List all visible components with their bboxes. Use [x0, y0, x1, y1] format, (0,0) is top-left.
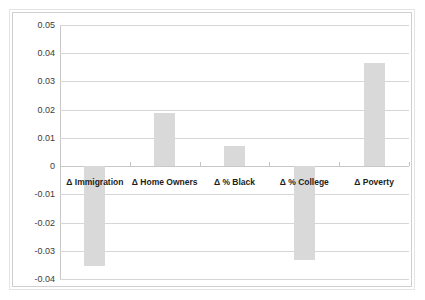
chart-frame: 0.050.040.030.020.010-0.01-0.02-0.03-0.0…	[9, 9, 415, 290]
y-axis-tick-label: -0.01	[34, 190, 55, 199]
bar[interactable]	[154, 113, 175, 166]
y-axis-tick-label: -0.02	[34, 218, 55, 227]
category-axis-tick	[269, 162, 270, 166]
gridline	[60, 251, 409, 252]
y-axis-tick-label: 0.02	[37, 105, 55, 114]
y-axis-tick-label: -0.04	[34, 275, 55, 284]
category-label: Δ % College	[280, 178, 329, 187]
bar[interactable]	[224, 146, 245, 167]
category-label: Δ Home Owners	[132, 178, 198, 187]
y-axis-tick-label: 0.04	[37, 49, 55, 58]
gridline	[60, 81, 409, 82]
category-axis-tick	[200, 162, 201, 166]
category-axis-tick	[60, 162, 61, 166]
zero-line	[60, 166, 409, 167]
bar[interactable]	[364, 63, 385, 166]
y-axis-tick-label: 0.01	[37, 133, 55, 142]
category-label: Δ % Black	[214, 178, 255, 187]
gridline	[60, 194, 409, 195]
gridline	[60, 223, 409, 224]
y-axis-tick-label: 0.05	[37, 21, 55, 30]
gridline	[60, 25, 409, 26]
y-axis-tick-label: -0.03	[34, 246, 55, 255]
gridline	[60, 110, 409, 111]
plot-area: 0.050.040.030.020.010-0.01-0.02-0.03-0.0…	[60, 25, 409, 279]
category-label: Δ Poverty	[354, 178, 394, 187]
category-label: Δ Immigration	[66, 178, 123, 187]
category-axis-tick	[130, 162, 131, 166]
gridline	[60, 138, 409, 139]
category-axis-tick	[409, 162, 410, 166]
gridline	[60, 279, 409, 280]
y-axis-line	[60, 25, 61, 279]
y-axis-tick-label: 0.03	[37, 77, 55, 86]
gridline	[60, 53, 409, 54]
y-axis-tick-label: 0	[50, 162, 55, 171]
category-axis-tick	[339, 162, 340, 166]
